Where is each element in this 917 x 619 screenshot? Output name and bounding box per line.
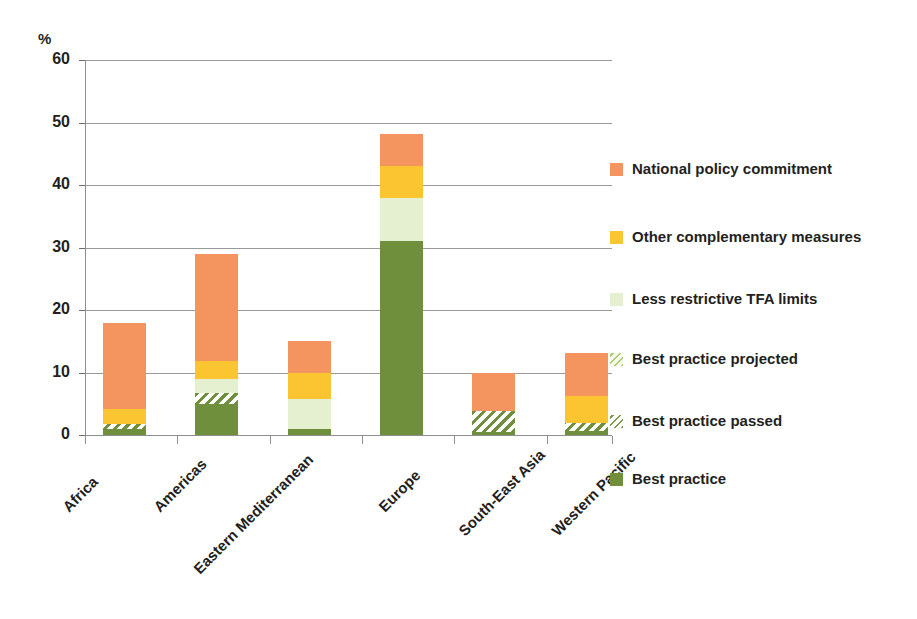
- bar-segment-best-practice-passed: [103, 424, 146, 429]
- bar-europe: [380, 134, 423, 435]
- gridline: [85, 248, 612, 249]
- legend-label: Other complementary measures: [632, 228, 861, 247]
- legend-swatch-icon: [610, 293, 623, 306]
- bar-segment-other-complementary-measures: [288, 373, 331, 399]
- bar-segment-national-policy-commitment: [380, 134, 423, 166]
- bar-segment-less-restrictive-tfa-limits: [195, 379, 238, 393]
- bar-segment-other-complementary-measures: [195, 361, 238, 379]
- gridline: [85, 310, 612, 311]
- x-axis-label-africa: Africa: [59, 473, 101, 515]
- bar-segment-national-policy-commitment: [472, 373, 515, 412]
- bar-segment-national-policy-commitment: [288, 341, 331, 372]
- x-axis-tick: [85, 436, 86, 444]
- y-axis-unit-label: %: [38, 30, 51, 47]
- gridline: [85, 123, 612, 124]
- legend-label: Best practice projected: [632, 350, 798, 369]
- y-axis-tick-label: 0: [26, 426, 70, 442]
- x-axis-label-south-east-asia: South-East Asia: [455, 446, 548, 539]
- bar-segment-less-restrictive-tfa-limits: [288, 399, 331, 429]
- bar-segment-other-complementary-measures: [380, 166, 423, 198]
- gridline: [85, 185, 612, 186]
- legend-swatch-icon: [610, 473, 623, 486]
- gridline: [85, 373, 612, 374]
- bar-segment-other-complementary-measures: [103, 409, 146, 424]
- x-axis-line: [85, 435, 612, 436]
- y-axis-tick-label: 20: [26, 301, 70, 317]
- bar-segment-best-practice: [565, 431, 608, 435]
- legend-label: Best practice passed: [632, 412, 782, 431]
- legend-item-best-practice[interactable]: Best practice: [610, 470, 726, 489]
- bar-segment-best-practice-passed: [195, 393, 238, 404]
- bar-segment-national-policy-commitment: [103, 323, 146, 409]
- bar-segment-national-policy-commitment: [195, 254, 238, 362]
- y-axis-tick-label: 10: [26, 364, 70, 380]
- x-axis-tick: [362, 436, 363, 444]
- legend-item-best-practice-projected[interactable]: Best practice projected: [610, 350, 798, 369]
- gridline: [85, 60, 612, 61]
- legend-item-less-restrictive-tfa-limits[interactable]: Less restrictive TFA limits: [610, 290, 817, 309]
- legend-swatch-icon: [610, 231, 623, 244]
- bar-americas: [195, 254, 238, 435]
- y-axis-tick-label: 50: [26, 114, 70, 130]
- bar-segment-national-policy-commitment: [565, 353, 608, 396]
- legend-item-national-policy-commitment[interactable]: National policy commitment: [610, 160, 832, 179]
- bar-segment-less-restrictive-tfa-limits: [380, 198, 423, 242]
- y-axis-tick-label: 40: [26, 176, 70, 192]
- bar-segment-other-complementary-measures: [565, 396, 608, 423]
- bar-segment-best-practice: [288, 429, 331, 435]
- bar-segment-best-practice-passed: [472, 411, 515, 432]
- bar-segment-best-practice: [472, 432, 515, 435]
- legend-label: National policy commitment: [632, 160, 832, 179]
- bar-western-pacific: [565, 353, 608, 436]
- y-axis-tick-label: 30: [26, 239, 70, 255]
- legend-label: Less restrictive TFA limits: [632, 290, 817, 309]
- x-axis-label-europe: Europe: [375, 466, 424, 515]
- stacked-bar-chart: % 6050403020100 AfricaAmericasEastern Me…: [0, 0, 917, 619]
- legend-swatch-icon: [610, 415, 623, 428]
- bar-eastern-mediterranean: [288, 341, 331, 435]
- legend-item-best-practice-passed[interactable]: Best practice passed: [610, 412, 782, 431]
- bar-segment-best-practice-passed: [565, 423, 608, 431]
- y-axis-tick-label: 60: [26, 51, 70, 67]
- x-axis-tick: [177, 436, 178, 444]
- legend-swatch-icon: [610, 353, 623, 366]
- x-axis-tick: [454, 436, 455, 444]
- x-axis-label-americas: Americas: [150, 455, 210, 515]
- x-axis-label-western-pacific: Western Pacific: [548, 448, 639, 539]
- x-axis-tick: [547, 436, 548, 444]
- y-axis-line: [85, 60, 86, 436]
- bar-segment-best-practice: [103, 429, 146, 435]
- bar-south-east-asia: [472, 373, 515, 436]
- bar-africa: [103, 323, 146, 436]
- bar-segment-best-practice: [195, 404, 238, 435]
- x-axis-label-eastern-mediterranean: Eastern Mediterranean: [190, 451, 316, 577]
- legend-label: Best practice: [632, 470, 726, 489]
- x-axis-tick: [612, 436, 613, 444]
- legend-swatch-icon: [610, 163, 623, 176]
- legend-item-other-complementary-measures[interactable]: Other complementary measures: [610, 228, 861, 247]
- bar-segment-best-practice: [380, 241, 423, 435]
- x-axis-tick: [270, 436, 271, 444]
